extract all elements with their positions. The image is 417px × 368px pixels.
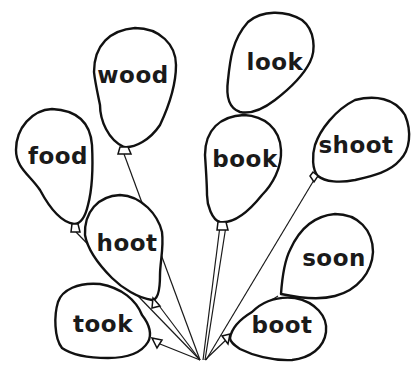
- word-shoot: shoot: [318, 134, 393, 157]
- word-food: food: [28, 145, 88, 168]
- balloon-wood: [94, 28, 176, 154]
- word-book: book: [212, 148, 277, 171]
- word-hoot: hoot: [97, 232, 158, 255]
- balloon-illustration: [0, 0, 417, 368]
- balloon-knot-icon: [71, 224, 80, 232]
- balloon-knot-icon: [217, 222, 228, 230]
- balloon-knot-icon: [152, 338, 162, 348]
- word-took: took: [73, 313, 133, 336]
- word-soon: soon: [302, 247, 366, 270]
- word-look: look: [247, 51, 304, 74]
- word-wood: wood: [97, 64, 168, 87]
- word-boot: boot: [251, 314, 312, 337]
- balloon-food: [16, 109, 92, 232]
- balloon-book: [205, 115, 281, 230]
- balloon-knot-icon: [118, 147, 131, 154]
